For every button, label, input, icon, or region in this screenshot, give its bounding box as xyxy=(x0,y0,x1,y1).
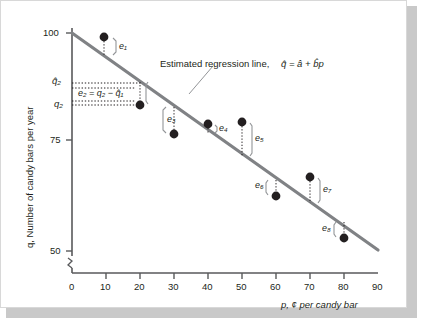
x-tick-label-10: 10 xyxy=(100,282,111,292)
residual-formula-e2: e₂ = q₂ − q̂₁ xyxy=(78,89,123,98)
x-tick-label-0: 0 xyxy=(69,282,74,292)
residual-bracket-4 xyxy=(215,125,217,133)
y-label-q2: q₂ xyxy=(54,99,63,109)
y-label-q2-hat: q̂₂ xyxy=(52,76,61,86)
data-point xyxy=(272,192,281,201)
data-point xyxy=(170,130,179,139)
residual-bracket-1 xyxy=(113,38,116,55)
x-tick-label-50: 50 xyxy=(236,282,247,292)
x-tick-label-70: 70 xyxy=(304,282,315,292)
data-point xyxy=(340,234,349,243)
x-tick-label-80: 80 xyxy=(338,282,349,292)
y-tick-label-50: 50 xyxy=(50,246,61,256)
residual-bracket-3 xyxy=(163,107,166,133)
y-axis-title: q, Number of candy bars per year xyxy=(24,106,35,248)
residual-bracket-8 xyxy=(334,222,336,237)
figure-root: 100 75 50 q̂₂ q₂ 0 10 20 30 40 50 60 70 … xyxy=(0,0,423,330)
annotation-leader-line xyxy=(189,66,213,94)
residual-label-1: e₁ xyxy=(119,42,127,51)
x-tick-label-60: 60 xyxy=(270,282,281,292)
data-point xyxy=(204,120,213,129)
x-tick-label-40: 40 xyxy=(202,282,213,292)
residual-bracket-5 xyxy=(250,123,252,156)
x-tick-label-30: 30 xyxy=(168,282,179,292)
regression-annotation-text: Estimated regression line, xyxy=(160,59,269,69)
y-axis-break-icon xyxy=(68,258,72,268)
x-tick-label-90: 90 xyxy=(372,282,383,292)
regression-annotation-equation: q̂ = â + b̂p xyxy=(281,59,324,69)
residual-label-5: e₅ xyxy=(255,134,264,143)
residual-label-6: e₆ xyxy=(255,181,264,190)
data-point xyxy=(100,33,109,42)
x-tick-label-20: 20 xyxy=(134,282,145,292)
data-point xyxy=(306,173,315,182)
chart-canvas: 100 75 50 q̂₂ q₂ 0 10 20 30 40 50 60 70 … xyxy=(0,0,423,330)
x-axis-title: p, ¢ per candy bar xyxy=(281,300,358,310)
y-tick-label-100: 100 xyxy=(43,28,59,38)
residual-bracket-6 xyxy=(266,180,268,195)
residual-label-3: e₃ xyxy=(167,115,176,124)
data-point xyxy=(238,118,247,127)
data-point xyxy=(136,101,145,110)
residual-label-4: e₄ xyxy=(219,124,228,133)
residual-label-8: e₈ xyxy=(322,224,331,233)
residual-bracket-7 xyxy=(318,178,320,203)
residual-label-7: e₇ xyxy=(323,185,331,194)
y-tick-label-75: 75 xyxy=(50,135,61,145)
